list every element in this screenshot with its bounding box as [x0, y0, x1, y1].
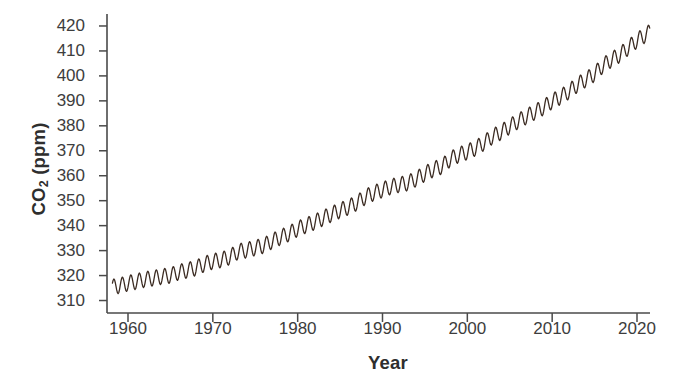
- axis-tick-marks: [99, 26, 637, 322]
- x-axis-label-text: Year: [368, 352, 408, 373]
- plot-area: [0, 0, 678, 388]
- x-axis-label: Year: [0, 352, 678, 374]
- chart-figure: CO2 (ppm) 310320330340350360370380390400…: [0, 0, 678, 388]
- co2-keeling-curve-line: [112, 25, 649, 293]
